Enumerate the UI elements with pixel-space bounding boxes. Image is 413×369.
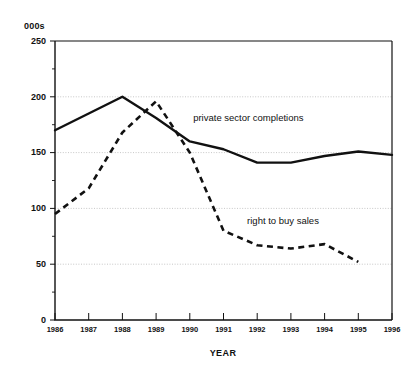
y-tick-label: 50 bbox=[36, 259, 46, 269]
series-annotation-private-sector-completions: private sector completions bbox=[193, 112, 304, 123]
series-annotation-right-to-buy-sales: right to buy sales bbox=[247, 215, 319, 226]
x-tick-label: 1988 bbox=[114, 325, 131, 334]
x-tick-label: 1994 bbox=[316, 325, 334, 334]
annotation-layer: private sector completionsright to buy s… bbox=[193, 112, 319, 226]
x-tick-label: 1986 bbox=[47, 325, 64, 334]
y-tick-label: 250 bbox=[31, 36, 46, 46]
axis-lines bbox=[55, 41, 392, 320]
x-tick-label: 1987 bbox=[80, 325, 97, 334]
unit-label: 000s bbox=[24, 21, 45, 31]
x-tick-label: 1990 bbox=[181, 325, 198, 334]
x-tick-label: 1991 bbox=[215, 325, 232, 334]
x-tick-label: 1993 bbox=[283, 325, 300, 334]
x-tick-label: 1995 bbox=[350, 325, 367, 334]
x-tick-label: 1996 bbox=[384, 325, 401, 334]
y-tick-label: 150 bbox=[31, 147, 46, 157]
x-axis-title: YEAR bbox=[210, 348, 237, 358]
y-tick-label: 0 bbox=[41, 315, 46, 325]
x-axis: 1986198719881989199019911992199319941995… bbox=[47, 313, 401, 334]
series-line-private-sector-completions bbox=[55, 97, 392, 163]
y-tick-label: 200 bbox=[31, 92, 46, 102]
y-tick-label: 100 bbox=[31, 203, 46, 213]
series-line-right-to-buy-sales bbox=[55, 101, 358, 262]
line-chart: 000s 050100150200250 1986198719881989199… bbox=[0, 0, 413, 369]
y-axis: 050100150200250 bbox=[31, 36, 55, 325]
chart-container: 000s 050100150200250 1986198719881989199… bbox=[0, 0, 413, 369]
x-tick-label: 1989 bbox=[148, 325, 165, 334]
x-tick-label: 1992 bbox=[249, 325, 266, 334]
